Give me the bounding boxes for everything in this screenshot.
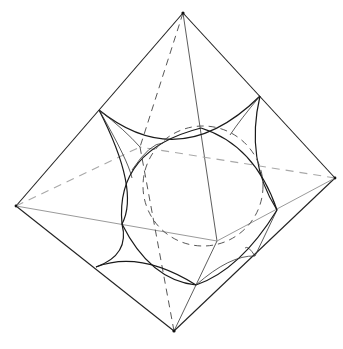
top-cell-arcs	[99, 96, 260, 147]
outer-edges	[16, 13, 335, 331]
front-edges	[16, 13, 335, 331]
hidden-edges	[16, 13, 335, 331]
octahedron-diagram	[0, 0, 343, 349]
vertex-points	[15, 11, 337, 332]
central-solid	[121, 128, 277, 285]
